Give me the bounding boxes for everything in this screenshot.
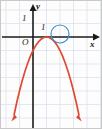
y-axis-label: y (36, 2, 40, 11)
x-tick-label-1: 1 (41, 23, 46, 32)
y-tick-label-1: 1 (22, 14, 27, 23)
coordinate-plot (0, 0, 102, 129)
x-axis-label: x (90, 40, 95, 49)
origin-label: O (22, 38, 29, 47)
graph-figure: y x O 1 1 (0, 0, 102, 129)
